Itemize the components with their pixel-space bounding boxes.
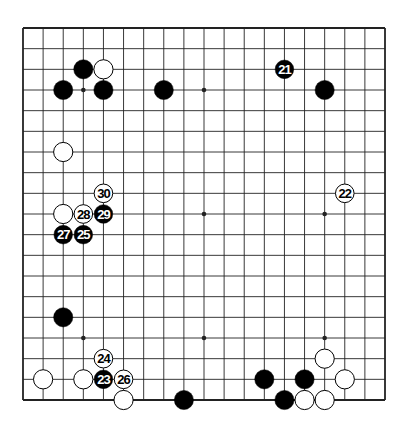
star-point-icon	[202, 336, 207, 341]
stone-icon	[315, 390, 334, 409]
move-number: 22	[339, 186, 352, 201]
star-point-icon	[81, 88, 86, 93]
stone-icon	[315, 80, 334, 99]
black-stone	[54, 308, 73, 327]
white-stone-28: 28	[74, 205, 93, 224]
stone-icon	[74, 60, 93, 79]
move-number: 29	[97, 207, 110, 222]
stone-icon	[335, 370, 354, 389]
star-point-icon	[322, 336, 327, 341]
move-number: 28	[77, 207, 90, 222]
white-stone	[315, 390, 334, 409]
star-point-icon	[202, 212, 207, 217]
stone-icon	[275, 390, 294, 409]
stone-icon	[94, 60, 113, 79]
black-stone	[295, 370, 314, 389]
white-stone-26: 26	[114, 370, 133, 389]
stone-icon	[154, 80, 173, 99]
move-number: 23	[97, 372, 110, 387]
white-stone	[34, 370, 53, 389]
white-stone	[295, 390, 314, 409]
stone-icon	[74, 370, 93, 389]
stone-icon	[34, 370, 53, 389]
black-stone	[275, 390, 294, 409]
white-stone	[74, 370, 93, 389]
star-point-icon	[322, 212, 327, 217]
black-stone	[255, 370, 274, 389]
move-number: 25	[77, 227, 90, 242]
white-stone	[54, 142, 73, 161]
move-number: 24	[97, 351, 111, 366]
black-stone	[315, 80, 334, 99]
black-stone	[74, 60, 93, 79]
go-board: 21302228292725242326	[0, 0, 408, 424]
black-stone	[94, 80, 113, 99]
black-stone	[154, 80, 173, 99]
star-point-icon	[81, 336, 86, 341]
stone-icon	[315, 349, 334, 368]
black-stone-21: 21	[275, 60, 294, 79]
stone-icon	[54, 80, 73, 99]
move-number: 21	[278, 62, 291, 77]
stone-icon	[255, 370, 274, 389]
move-number: 26	[117, 372, 130, 387]
stone-icon	[295, 370, 314, 389]
black-stone-23: 23	[94, 370, 113, 389]
move-number: 27	[57, 227, 70, 242]
stone-icon	[54, 204, 73, 223]
black-stone-25: 25	[74, 225, 93, 244]
stone-icon	[174, 390, 193, 409]
white-stone-22: 22	[335, 184, 354, 203]
white-stone	[335, 370, 354, 389]
stone-icon	[54, 308, 73, 327]
white-stone	[54, 204, 73, 223]
white-stone	[315, 349, 334, 368]
white-stone-24: 24	[94, 349, 113, 368]
black-stone-27: 27	[54, 225, 73, 244]
star-point-icon	[202, 88, 207, 93]
white-stone	[114, 390, 133, 409]
white-stone	[94, 60, 113, 79]
black-stone	[54, 80, 73, 99]
stone-icon	[114, 390, 133, 409]
black-stone-29: 29	[94, 205, 113, 224]
stone-icon	[94, 80, 113, 99]
black-stone	[174, 390, 193, 409]
stone-icon	[54, 142, 73, 161]
stone-icon	[295, 390, 314, 409]
white-stone-30: 30	[94, 184, 113, 203]
move-number: 30	[97, 186, 110, 201]
